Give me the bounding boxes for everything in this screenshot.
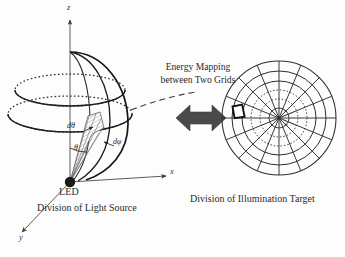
axis-label-z: z xyxy=(67,3,70,13)
angle-label-d-phi: dφ xyxy=(113,138,121,147)
mapping-title-line-1: Energy Mapping xyxy=(150,62,246,73)
axis-label-y: y xyxy=(19,233,23,243)
caption-light-source: Division of Light Source xyxy=(37,202,137,213)
figure-vector-canvas xyxy=(0,0,345,257)
polar-inner-label-r: r xyxy=(284,108,286,113)
led-label: LED xyxy=(59,186,79,197)
leader-line-dashed xyxy=(131,92,196,110)
caption-illumination-target: Division of Illumination Target xyxy=(190,193,315,204)
angle-label-theta: θ xyxy=(74,144,78,153)
polar-inner-label-dr: dr xyxy=(284,122,288,127)
mapping-title-line-2: between Two Grids xyxy=(145,75,251,86)
angle-label-d-theta: dθ xyxy=(67,122,75,131)
energy-mapping-figure: z x y dθ θ dφ LED Division of Light Sour… xyxy=(0,0,345,257)
dome-meridian-inner xyxy=(70,52,90,182)
energy-mapping-annotation xyxy=(131,92,226,131)
axis-label-x: x xyxy=(170,167,174,177)
highlighted-grid-cell xyxy=(233,105,245,119)
double-headed-arrow xyxy=(176,105,226,131)
light-source-3d-diagram xyxy=(8,20,166,232)
